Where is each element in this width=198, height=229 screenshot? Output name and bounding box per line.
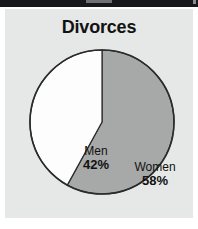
- pie-label-women-value: 58%: [124, 174, 186, 187]
- chart-panel: Divorces Men 42% Women 58%: [5, 9, 193, 218]
- pie-label-men: Men 42%: [70, 145, 122, 171]
- figure-container: Divorces Men 42% Women 58%: [0, 0, 198, 229]
- top-dark-band: [0, 0, 198, 7]
- chart-title: Divorces: [5, 17, 193, 37]
- window-tick-icon: [193, 0, 196, 4]
- window-notch-icon: [86, 0, 112, 3]
- pie-label-women: Women 58%: [124, 161, 186, 187]
- pie-chart: Men 42% Women 58%: [28, 48, 176, 196]
- pie-label-men-value: 42%: [70, 158, 122, 171]
